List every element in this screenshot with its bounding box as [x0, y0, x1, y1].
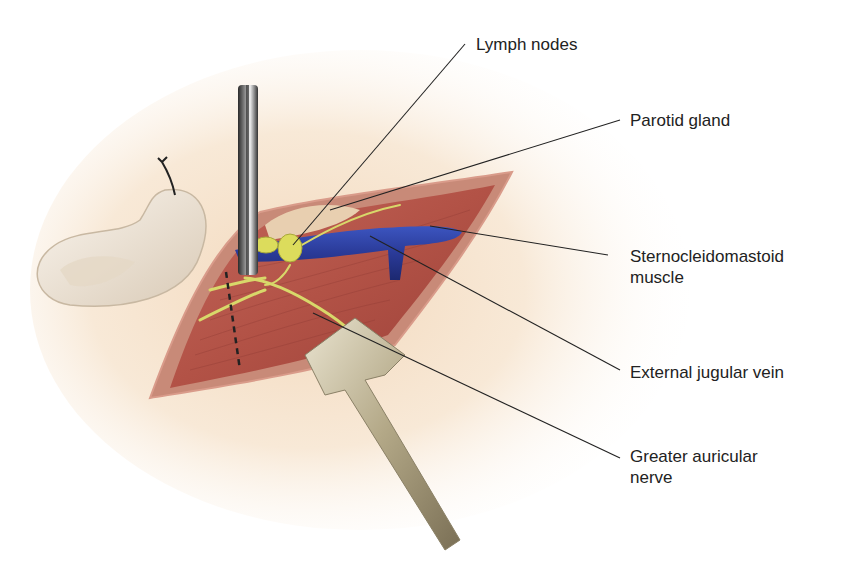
label-text: Greater auricular: [630, 446, 758, 467]
label-external-jugular-vein: External jugular vein: [630, 362, 784, 383]
label-text: Parotid gland: [630, 110, 730, 131]
label-lymph-nodes: Lymph nodes: [476, 34, 577, 55]
label-text: muscle: [630, 267, 784, 288]
skin-hook: [238, 85, 258, 275]
label-text: Sternocleidomastoid: [630, 246, 784, 267]
label-text: Lymph nodes: [476, 34, 577, 55]
label-sternocleidomastoid-muscle: Sternocleidomastoid muscle: [630, 246, 784, 288]
label-parotid-gland: Parotid gland: [630, 110, 730, 131]
label-greater-auricular-nerve: Greater auricular nerve: [630, 446, 758, 488]
label-text: nerve: [630, 467, 758, 488]
label-text: External jugular vein: [630, 362, 784, 383]
